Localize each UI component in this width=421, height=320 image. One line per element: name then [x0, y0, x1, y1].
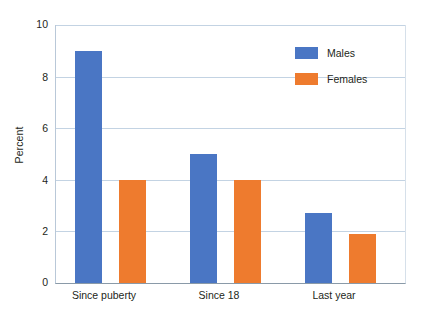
bar-males-last-year: [305, 213, 332, 283]
legend-entry-males: Males: [295, 43, 395, 63]
legend-label-males: Males: [327, 47, 355, 59]
bar-females-since-18: [234, 180, 261, 283]
bar-males-since-puberty: [75, 51, 102, 283]
y-tick-label-4: 4: [8, 174, 48, 186]
y-tick-label-8: 8: [8, 71, 48, 83]
y-tick-label-6: 6: [8, 122, 48, 134]
x-category-label-last-year: Last year: [284, 289, 384, 301]
y-axis-title: Percent: [13, 105, 25, 185]
y-tick-label-2: 2: [8, 225, 48, 237]
bar-chart-figure: Percent 10 8 6 4 2 0 Since puberty Since…: [0, 0, 421, 320]
gridline-4: [56, 180, 405, 181]
gridline-10: [56, 25, 405, 26]
legend-swatch-males-icon: [295, 47, 318, 59]
bar-females-since-puberty: [119, 180, 146, 283]
y-tick-label-0: 0: [8, 276, 48, 288]
bar-females-last-year: [349, 234, 376, 283]
legend-label-females: Females: [327, 73, 367, 85]
legend-entry-females: Females: [295, 69, 395, 89]
gridline-6: [56, 128, 405, 129]
x-category-label-since-18: Since 18: [169, 289, 269, 301]
chart-legend: Males Females: [295, 43, 395, 95]
legend-swatch-females-icon: [295, 73, 318, 85]
bar-males-since-18: [190, 154, 217, 283]
y-tick-label-10: 10: [8, 18, 48, 30]
x-category-label-since-puberty: Since puberty: [54, 289, 154, 301]
gridline-2: [56, 231, 405, 232]
